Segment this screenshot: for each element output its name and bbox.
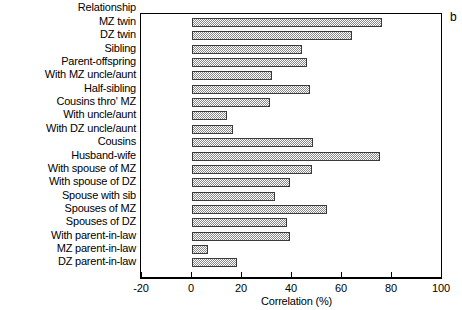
category-label: DZ parent-in-law: [58, 256, 136, 267]
x-axis-tick: [141, 272, 142, 279]
bar: [192, 218, 287, 227]
category-label: Cousins thro' MZ: [56, 96, 136, 107]
bar: [192, 85, 310, 94]
bar: [192, 125, 233, 134]
x-axis-tick: [191, 272, 192, 279]
category-label: MZ parent-in-law: [57, 243, 136, 254]
category-label: With parent-in-law: [51, 230, 136, 241]
category-label: With spouse of MZ: [48, 163, 136, 174]
x-axis-tick: [391, 272, 392, 279]
bar: [192, 258, 237, 267]
category-label: With MZ uncle/aunt: [45, 69, 136, 80]
panel-letter: b: [450, 11, 457, 23]
category-label: With uncle/aunt: [63, 109, 136, 120]
bar: [192, 111, 227, 120]
x-axis-tick: [291, 272, 292, 279]
category-label: MZ twin: [99, 16, 136, 27]
category-axis-header: Relationship: [78, 2, 136, 13]
bar: [192, 58, 307, 67]
bar: [192, 165, 312, 174]
x-axis-tick-label: 80: [385, 283, 397, 294]
bar: [192, 18, 382, 27]
x-axis-tick-label: 60: [335, 283, 347, 294]
bar: [192, 71, 272, 80]
bar-chart: Relationship MZ twinDZ twinSiblingParent…: [0, 0, 462, 310]
bar: [192, 205, 327, 214]
category-label: Spouses of DZ: [66, 216, 136, 227]
x-axis-tick-label: -20: [133, 283, 148, 294]
x-axis-tick-label: 100: [432, 283, 450, 294]
x-axis-tick-label: 0: [188, 283, 194, 294]
category-label: Cousins: [98, 136, 136, 147]
bar: [192, 138, 313, 147]
category-label: Spouses of MZ: [65, 203, 136, 214]
bar: [192, 178, 290, 187]
category-label: Spouse with sib: [62, 190, 136, 201]
category-label: Sibling: [104, 43, 136, 54]
plot-area: [140, 13, 442, 278]
x-axis-tick: [441, 272, 442, 279]
category-label: Parent-offspring: [61, 56, 136, 67]
bar: [192, 245, 208, 254]
category-label: DZ twin: [100, 29, 136, 40]
x-axis-tick: [341, 272, 342, 279]
x-axis-tick-label: 40: [285, 283, 297, 294]
bar: [192, 45, 302, 54]
category-axis: Relationship MZ twinDZ twinSiblingParent…: [0, 0, 136, 285]
category-label: Husband-wife: [71, 150, 136, 161]
x-axis-tick-label: 20: [235, 283, 247, 294]
category-label: With spouse of DZ: [49, 176, 136, 187]
bar: [192, 192, 275, 201]
bars-container: [141, 14, 441, 277]
category-label: With DZ uncle/aunt: [46, 123, 136, 134]
category-label: Half-sibling: [84, 83, 136, 94]
x-axis-tick: [241, 272, 242, 279]
bar: [192, 232, 290, 241]
bar: [192, 98, 270, 107]
bar: [192, 152, 380, 161]
x-axis-title: Correlation (%): [151, 296, 442, 307]
bar: [192, 31, 352, 40]
